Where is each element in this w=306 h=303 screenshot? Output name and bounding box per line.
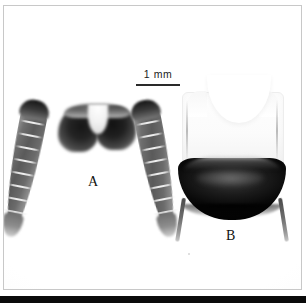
specimen-a — [14, 100, 174, 245]
specimen-b-plate-lower-margin — [182, 204, 282, 218]
specimen-a-basal-body — [58, 104, 136, 152]
dust-speck — [188, 253, 190, 255]
photo-frame: 1 mm — [3, 5, 302, 290]
panel-label-a: A — [88, 174, 99, 190]
scale-bar-label: 1 mm — [130, 68, 186, 80]
bottom-black-bar — [0, 296, 306, 303]
specimen-b-plate-highlight — [196, 170, 264, 186]
figure-plate: 1 mm — [0, 0, 306, 303]
panel-label-b: B — [226, 228, 236, 244]
specimen-b-left-shoulder — [187, 91, 207, 117]
specimen-b — [176, 92, 288, 242]
specimen-b-left-edge — [186, 100, 188, 162]
scale-bar: 1 mm — [130, 68, 186, 86]
specimen-b-left-stylus — [175, 198, 186, 242]
specimen-b-right-stylus — [278, 198, 289, 242]
scale-bar-line — [136, 84, 180, 86]
specimen-b-right-edge — [276, 100, 278, 162]
cercus-tip — [3, 211, 24, 238]
